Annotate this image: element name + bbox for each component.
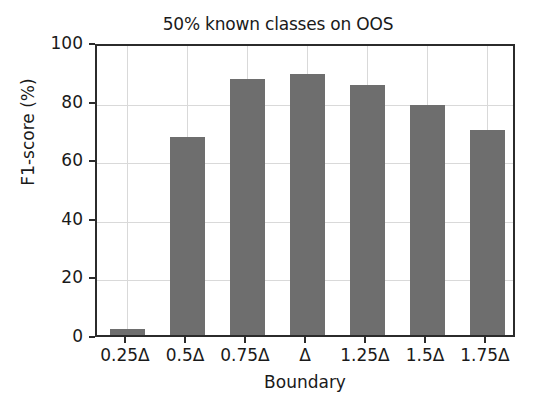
y-axis-label: F1-score (%)	[18, 42, 38, 222]
y-tick-label: 0	[9, 326, 83, 346]
x-tick-label: 0.5Δ	[166, 345, 205, 365]
x-tick-label: 1.75Δ	[460, 345, 509, 365]
y-tick-mark	[89, 219, 95, 221]
figure-canvas: 50% known classes on OOS 0204060801000.2…	[0, 0, 556, 405]
y-tick-mark	[89, 277, 95, 279]
x-tick-label: 1.5Δ	[406, 345, 445, 365]
x-tick-label: 0.75Δ	[220, 345, 269, 365]
bar	[470, 130, 505, 335]
x-tick-label: Δ	[299, 345, 311, 365]
y-tick-mark	[89, 160, 95, 162]
bar	[170, 137, 205, 335]
chart-title: 50% known classes on OOS	[0, 14, 556, 34]
x-tick-label: 0.25Δ	[100, 345, 149, 365]
y-tick-mark	[89, 336, 95, 338]
bar	[290, 74, 325, 335]
y-tick-mark	[89, 43, 95, 45]
x-tick-mark	[424, 337, 426, 343]
bar	[230, 79, 265, 335]
x-tick-mark	[304, 337, 306, 343]
bar	[350, 85, 385, 336]
bars-layer	[97, 46, 513, 335]
y-tick-label: 20	[9, 267, 83, 287]
x-tick-mark	[184, 337, 186, 343]
plot-area	[95, 44, 515, 337]
bar	[410, 105, 445, 335]
x-tick-mark	[484, 337, 486, 343]
bar	[110, 329, 145, 335]
x-tick-mark	[244, 337, 246, 343]
x-tick-mark	[124, 337, 126, 343]
y-tick-mark	[89, 102, 95, 104]
x-tick-label: 1.25Δ	[340, 345, 389, 365]
x-tick-mark	[364, 337, 366, 343]
x-axis-label: Boundary	[95, 372, 515, 392]
